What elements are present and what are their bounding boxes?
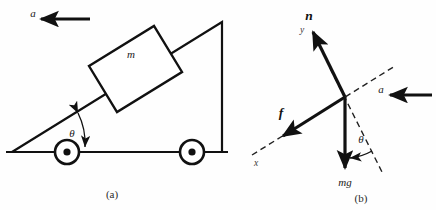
panel-b-caption: (b) [355,192,368,205]
block-m: m [89,26,182,112]
friction-force-vector: f x [253,97,345,168]
acceleration-arrow-b: a [378,83,432,95]
angle-label-b: θ [358,133,364,145]
block-outline [89,26,182,112]
wheel-right [180,140,204,164]
normal-force-label: n [305,8,313,23]
incline-angle-arc-path [78,113,85,147]
block-mass-label: m [127,48,135,60]
incline-angle-label: θ [69,127,75,139]
angle-arc-b: θ [350,133,372,158]
y-axis-label: y [299,25,305,35]
normal-force-arrow [313,32,345,97]
friction-force-arrow [283,97,345,136]
x-axis-label: x [253,158,259,168]
normal-force-vector: n y [299,8,345,97]
friction-force-label: f [279,105,285,120]
panel-a-caption: (a) [106,188,119,201]
figure-canvas: m θ a (a) [0,0,436,210]
wheel-left-hub [63,148,70,155]
wheel-left [55,140,79,164]
weight-vector: mg [338,97,352,188]
acceleration-label-b: a [378,83,384,95]
angle-arc-b-path [350,151,372,158]
acceleration-label-a: a [30,7,36,19]
weight-label: mg [338,176,352,188]
wheel-right-hub [188,148,195,155]
panel-a-group: m θ a (a) [6,7,228,201]
physics-figure: m θ a (a) [0,0,436,210]
panel-b-group: n y f x mg θ a [252,8,432,205]
